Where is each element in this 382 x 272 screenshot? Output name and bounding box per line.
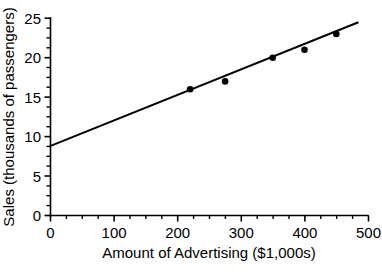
y-axis-title: Sales (thousands of passengers): [0, 7, 17, 226]
regression-line: [50, 22, 358, 146]
data-point: [301, 47, 308, 54]
x-tick-label-200: 200: [165, 224, 190, 241]
x-tick-label-400: 400: [292, 224, 317, 241]
data-point: [187, 86, 194, 93]
data-point: [269, 54, 276, 61]
y-tick-label-0: 0: [33, 207, 41, 224]
y-tick-label-5: 5: [33, 168, 41, 185]
plot-canvas: 0 100 200 300 400 500 0 5 10 15 20 25 Am…: [0, 0, 382, 272]
data-point: [333, 31, 340, 38]
scatter-plot-figure: 0 100 200 300 400 500 0 5 10 15 20 25 Am…: [0, 0, 382, 272]
y-tick-label-15: 15: [24, 89, 41, 106]
data-point: [222, 78, 229, 85]
x-tick-label-100: 100: [102, 224, 127, 241]
x-axis-title: Amount of Advertising ($1,000s): [102, 244, 315, 261]
y-tick-label-10: 10: [24, 128, 41, 145]
y-tick-label-25: 25: [24, 10, 41, 27]
x-tick-label-0: 0: [46, 224, 54, 241]
x-tick-label-500: 500: [356, 224, 381, 241]
y-tick-label-20: 20: [24, 49, 41, 66]
x-tick-label-300: 300: [229, 224, 254, 241]
